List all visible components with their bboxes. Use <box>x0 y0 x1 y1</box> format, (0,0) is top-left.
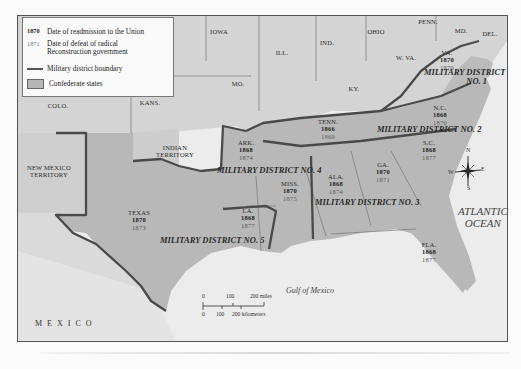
scale-bar-graphic <box>202 301 272 311</box>
state-tenn: TENN. 1866 1869 <box>318 118 338 140</box>
gulf-of-mexico-label: Gulf of Mexico <box>286 286 334 295</box>
state-sc: S.C. 1868 1877 <box>422 139 436 161</box>
district-1-line2: NO. 1 <box>424 77 505 86</box>
state-fla-redeemed: 1877 <box>422 256 437 263</box>
state-la: LA. 1868 1877 <box>241 207 255 229</box>
state-label-mo: MO. <box>232 80 245 87</box>
state-texas-redeemed: 1873 <box>128 224 150 231</box>
state-label-ohio: OHIO <box>367 28 384 35</box>
state-ark: ARK. 1868 1874 <box>238 139 254 161</box>
compass-w: W <box>448 169 454 175</box>
state-fla: FLA. 1868 1877 <box>422 241 437 263</box>
state-tenn-name: TENN. <box>318 118 338 125</box>
state-ark-readmitted: 1868 <box>238 146 254 153</box>
legend-defeat-key: 1871 <box>27 40 47 47</box>
state-nc-name: N.C. <box>433 104 447 111</box>
scale-mi-100: 100 <box>226 293 234 299</box>
scale-mi-0: 0 <box>202 293 205 299</box>
atlantic-ocean-label: ATLANTIC OCEAN <box>458 206 508 229</box>
state-label-wva: W. VA. <box>396 54 416 61</box>
map-legend: 1870 Date of readmission to the Union 18… <box>22 17 174 97</box>
state-la-readmitted: 1868 <box>241 214 255 221</box>
state-label-penn: PENN. <box>418 18 438 25</box>
state-label-md: MD. <box>455 27 468 34</box>
state-va-name: VA. <box>440 49 454 56</box>
state-label-colo: COLO. <box>48 102 68 109</box>
state-tenn-redeemed: 1869 <box>318 133 338 140</box>
state-label-kans: KANS. <box>140 99 160 106</box>
compass-rose: N S E W <box>453 150 483 190</box>
state-ala-readmitted: 1868 <box>328 180 344 187</box>
state-label-illinois: ILL. <box>276 49 289 56</box>
legend-confederate-label: Confederate states <box>49 79 103 88</box>
state-label-del: DEL. <box>482 30 497 37</box>
state-miss-redeemed: 1875 <box>281 195 299 202</box>
atlantic-line1: ATLANTIC <box>458 206 508 218</box>
state-fla-readmitted: 1868 <box>422 248 437 255</box>
legend-defeat: 1871 Date of defeat of radical Reconstru… <box>27 40 167 56</box>
state-nc-readmitted: 1868 <box>433 111 447 118</box>
scale-km-0: 0 <box>202 311 205 317</box>
state-label-new-mexico-territory: NEW MEXICO TERRITORY <box>24 164 74 179</box>
legend-readmission: 1870 Date of readmission to the Union <box>27 27 144 36</box>
state-fla-name: FLA. <box>422 241 437 248</box>
state-label-iowa: IOWA <box>210 28 228 35</box>
boundary-line-swatch <box>27 68 43 70</box>
state-miss-name: MISS. <box>281 180 299 187</box>
legend-readmission-label: Date of readmission to the Union <box>47 27 144 36</box>
state-label-indiana: IND. <box>320 39 334 46</box>
district-5-label: MILITARY DISTRICT NO. 5 <box>160 236 264 245</box>
legend-defeat-label: Date of defeat of radical Reconstruction… <box>47 40 157 56</box>
scale-mi-200: 200 miles <box>250 293 272 299</box>
state-texas-name: TEXAS <box>128 209 150 216</box>
state-sc-name: S.C. <box>422 139 436 146</box>
district-1-label: MILITARY DISTRICT NO. 1 <box>424 68 505 86</box>
state-miss-readmitted: 1870 <box>281 187 299 194</box>
state-texas-readmitted: 1870 <box>128 216 150 223</box>
confederate-swatch <box>27 79 44 89</box>
scale-km-200: 200 kilometers <box>232 311 265 317</box>
compass-s: S <box>467 185 470 191</box>
state-ark-redeemed: 1874 <box>238 154 254 161</box>
state-ala-name: ALA. <box>328 173 344 180</box>
state-sc-readmitted: 1868 <box>422 146 436 153</box>
state-sc-redeemed: 1877 <box>422 154 436 161</box>
legend-boundary: Military district boundary <box>27 64 122 73</box>
state-texas: TEXAS 1870 1873 <box>128 209 150 231</box>
compass-n: N <box>466 147 470 153</box>
state-va-readmitted: 1870 <box>440 56 454 63</box>
state-la-redeemed: 1877 <box>241 222 255 229</box>
legend-boundary-label: Military district boundary <box>47 64 122 73</box>
state-ga-readmitted: 1870 <box>376 168 390 175</box>
district-4-label: MILITARY DISTRICT NO. 4 <box>217 166 321 175</box>
district-2-label: MILITARY DISTRICT NO. 2 <box>377 125 481 134</box>
state-ala-redeemed: 1874 <box>328 188 344 195</box>
state-miss: MISS. 1870 1875 <box>281 180 299 202</box>
state-tenn-readmitted: 1866 <box>318 125 338 132</box>
state-ga-redeemed: 1871 <box>376 176 390 183</box>
mexico-label: MEXICO <box>35 319 97 328</box>
state-ga: GA. 1870 1871 <box>376 161 390 183</box>
scale-km-100: 100 <box>216 311 224 317</box>
state-ga-name: GA. <box>376 161 390 168</box>
state-la-name: LA. <box>241 207 255 214</box>
page-divider <box>40 352 510 354</box>
atlantic-line2: OCEAN <box>458 218 508 230</box>
state-ala: ALA. 1868 1874 <box>328 173 344 195</box>
district-1-line1: MILITARY DISTRICT <box>424 68 505 77</box>
state-label-ky: KY. <box>349 85 360 92</box>
legend-readmission-key: 1870 <box>27 27 47 34</box>
state-label-indian-territory: INDIAN TERRITORY <box>150 144 200 159</box>
compass-e: E <box>481 166 485 172</box>
legend-confederate: Confederate states <box>27 79 103 89</box>
district-3-label: MILITARY DISTRICT NO. 3 <box>315 198 419 207</box>
compass-icon <box>453 150 483 190</box>
state-ark-name: ARK. <box>238 139 254 146</box>
